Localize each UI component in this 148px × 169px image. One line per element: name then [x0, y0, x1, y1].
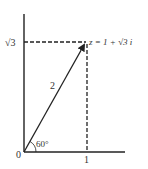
y-tick-label: √3 — [5, 37, 16, 48]
point-label: z = 1 + √3 i — [88, 37, 133, 47]
vector-arrow — [24, 45, 84, 152]
complex-plane-diagram: √3 z = 1 + √3 i 2 60° 0 1 — [0, 0, 148, 169]
x-tick-label: 1 — [84, 154, 89, 165]
origin-label: 0 — [16, 149, 21, 160]
magnitude-label: 2 — [50, 80, 55, 91]
angle-label: 60° — [36, 139, 49, 149]
